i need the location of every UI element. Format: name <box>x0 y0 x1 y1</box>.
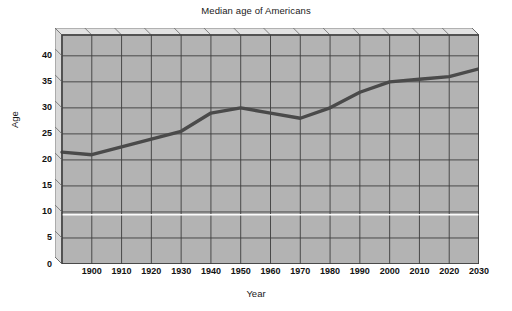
y-axis-tick-label: 0 <box>30 260 52 269</box>
y-axis-tick-label: 15 <box>30 181 52 190</box>
chart-title: Median age of Americans <box>0 5 512 16</box>
y-axis-tick-label: 25 <box>30 129 52 138</box>
x-axis-tick-labels: 1900191019201930194019501960197019801990… <box>55 266 495 282</box>
x-axis-label: Year <box>0 288 512 299</box>
y-axis-tick-labels: 0510152025303540 <box>22 28 52 264</box>
chart-container: Median age of Americans Age Year 0510152… <box>0 0 512 311</box>
y-axis-tick-label: 20 <box>30 155 52 164</box>
y-axis-tick-label: 30 <box>30 103 52 112</box>
x-axis-tick-label: 2030 <box>462 266 496 277</box>
y-axis-tick-label: 35 <box>30 77 52 86</box>
y-axis-tick-label: 40 <box>30 51 52 60</box>
y-axis-tick-label: 10 <box>30 207 52 216</box>
y-axis-label: Age <box>9 111 20 128</box>
plot-bevel-left <box>55 28 62 264</box>
y-axis-tick-label: 5 <box>30 233 52 242</box>
plot-area <box>55 28 479 264</box>
